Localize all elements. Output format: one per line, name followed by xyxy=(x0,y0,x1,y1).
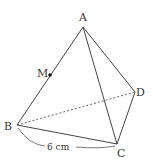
point-M xyxy=(48,73,52,77)
label-C: C xyxy=(117,147,125,160)
label-A: A xyxy=(78,11,88,24)
edge-BD-hidden xyxy=(17,92,135,125)
edge-CD xyxy=(117,92,135,144)
dimension-arc-BC-right xyxy=(76,146,115,148)
edge-AD xyxy=(83,27,135,92)
label-M: M xyxy=(37,67,48,80)
dimension-label-BC: 6 cm xyxy=(47,142,70,152)
label-B: B xyxy=(4,120,12,133)
dimension-arc-BC xyxy=(18,128,45,146)
tetrahedron-diagram: A M B C D 6 cm xyxy=(0,0,153,162)
label-D: D xyxy=(136,86,145,99)
edge-AC xyxy=(83,27,117,144)
